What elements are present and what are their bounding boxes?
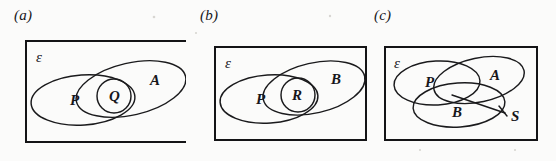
universe-label-a: ε: [36, 49, 42, 65]
set-label-a-P: P: [70, 92, 80, 108]
venn-drawing-a: ε P A Q: [0, 0, 186, 161]
set-label-b-R: R: [291, 87, 302, 103]
set-label-c-B: B: [451, 104, 462, 120]
set-label-a-Q: Q: [109, 88, 120, 104]
set-label-c-P: P: [425, 74, 435, 90]
venn-drawing-b: ε P B R: [188, 0, 374, 161]
figure-root: (a) ε P A Q (b) ε P: [0, 0, 556, 161]
universe-rectangle-b: [215, 47, 366, 140]
set-label-c-A: A: [489, 67, 500, 83]
universe-label-b: ε: [225, 55, 231, 71]
set-label-a-A: A: [149, 72, 160, 88]
set-label-b-P: P: [256, 91, 266, 107]
universe-rectangle-a: [26, 41, 186, 142]
set-ellipse-c-A: [429, 49, 528, 111]
venn-drawing-c: ε P A B S: [366, 0, 556, 161]
universe-label-c: ε: [394, 55, 400, 71]
venn-panel-c: (c) ε P A B S: [366, 0, 552, 161]
set-label-c-S: S: [511, 108, 519, 124]
venn-panel-a: (a) ε P A Q: [0, 0, 186, 161]
set-ellipse-a-A: [71, 51, 186, 127]
set-label-b-B: B: [330, 71, 341, 87]
venn-panel-b: (b) ε P B R: [188, 0, 374, 161]
